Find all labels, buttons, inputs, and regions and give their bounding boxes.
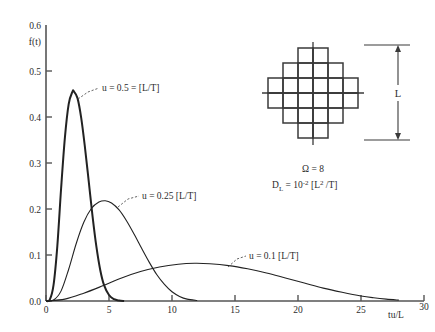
figure-container: 0.6 0.5 0.4 0.3 0.2 0.1 0.0 f(t) 0 5 10 … <box>0 0 435 332</box>
y-axis-ticks <box>46 71 52 301</box>
annotation-labels: u = 0.5 = [L/T] u = 0.25 [L/T] u = 0.1 [… <box>102 83 299 261</box>
x-tick-label-25: 25 <box>356 305 366 315</box>
curve-u-0.1 <box>46 263 399 301</box>
x-tick-label-5: 5 <box>107 305 112 315</box>
x-tick-label-30: 30 <box>419 302 429 312</box>
plot-axes <box>46 25 424 301</box>
annotation-u-0.1: u = 0.1 [L/T] <box>249 251 299 261</box>
x-tick-label-20: 20 <box>293 305 303 315</box>
y-tick-label-0.0: 0.0 <box>29 297 41 307</box>
inset-lattice-diagram: L Ω = 8 DL = 10-2 [L2 /T] <box>262 42 410 193</box>
lattice-cells <box>268 48 358 138</box>
x-tick-label-10: 10 <box>167 305 177 315</box>
leader-line-u-0.5 <box>78 88 99 99</box>
x-tick-label-0: 0 <box>44 305 49 315</box>
diffusion-end: /T] <box>323 180 337 190</box>
inset-omega-label: Ω = 8 <box>302 164 324 174</box>
y-tick-label-0.4: 0.4 <box>29 113 41 123</box>
dimension-bracket-L: L <box>364 45 410 140</box>
annotation-u-0.25: u = 0.25 [L/T] <box>142 191 196 201</box>
y-axis-tick-labels: 0.6 0.5 0.4 0.3 0.2 0.1 0.0 <box>29 21 41 307</box>
residence-time-distribution-chart: 0.6 0.5 0.4 0.3 0.2 0.1 0.0 f(t) 0 5 10 … <box>0 0 435 332</box>
y-axis-title: f(t) <box>29 37 41 48</box>
y-tick-label-0.3: 0.3 <box>29 159 41 169</box>
curve-u-0.5 <box>46 90 124 301</box>
x-axis-ticks <box>46 295 424 301</box>
y-tick-label-0.2: 0.2 <box>29 205 41 215</box>
diffusion-body: = 10 <box>283 180 303 190</box>
curve-series-group <box>46 90 399 301</box>
dimension-arrowhead-down <box>395 133 401 140</box>
curve-u-0.25 <box>46 201 197 301</box>
y-tick-label-0.6: 0.6 <box>29 21 41 31</box>
dimension-arrowhead-up <box>395 45 401 52</box>
diffusion-tail: [L <box>309 180 321 190</box>
x-axis-title: tu/L <box>388 310 404 320</box>
svg-text:DL = 10-2 [L2 /T]: DL = 10-2 [L2 /T] <box>272 179 337 193</box>
dimension-label-L: L <box>395 88 401 99</box>
y-tick-label-0.1: 0.1 <box>29 251 41 261</box>
x-tick-label-15: 15 <box>230 305 240 315</box>
inset-diffusion-label: DL = 10-2 [L2 /T] <box>272 179 337 193</box>
annotation-leaders <box>78 88 246 267</box>
leader-line-u-0.25 <box>118 196 139 207</box>
y-tick-label-0.5: 0.5 <box>29 67 41 77</box>
x-axis-tick-labels: 0 5 10 15 20 25 30 <box>44 302 429 315</box>
annotation-u-0.5: u = 0.5 = [L/T] <box>102 83 159 93</box>
